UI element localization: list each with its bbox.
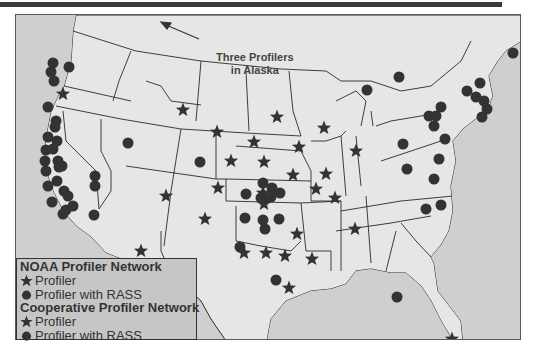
profiler-rass-marker [89,210,100,221]
profiler-rass-marker [260,224,271,235]
profiler-rass-marker [421,204,432,215]
profiler-rass-marker [440,134,451,145]
profiler-rass-marker [241,189,252,200]
annotation-line-2: in Alaska [216,64,294,77]
star-icon [20,315,33,328]
star-icon [20,274,33,287]
legend-label: Profiler with RASS [35,329,142,343]
profiler-rass-marker [58,209,69,220]
profiler-rass-marker [462,86,473,97]
legend-noaa-profiler: Profiler [20,274,193,288]
legend-noaa-header: NOAA Profiler Network [20,260,193,274]
legend-noaa-rass: Profiler with RASS [20,288,193,302]
profiler-rass-marker [49,76,60,87]
profiler-rass-marker [398,139,409,150]
profiler-rass-marker [477,112,488,123]
profiler-rass-marker [50,122,61,133]
profiler-rass-marker [475,78,486,89]
profiler-rass-marker [471,92,482,103]
legend-coop-rass: Profiler with RASS [20,329,193,343]
legend-coop-header: Cooperative Profiler Network [20,301,193,315]
profiler-rass-marker [394,72,405,83]
profiler-rass-marker [57,161,68,172]
profiler-rass-marker [429,121,440,132]
profiler-rass-marker [436,200,447,211]
profiler-rass-marker [52,176,63,187]
profiler-rass-marker [195,157,206,168]
profiler-rass-marker [63,191,74,202]
legend-coop-profiler: Profiler [20,315,193,329]
profiler-rass-marker [43,102,54,113]
profiler-rass-marker [47,197,58,208]
legend: NOAA Profiler Network Profiler Profiler … [16,258,197,340]
profiler-rass-marker [429,174,440,185]
profiler-rass-marker [90,181,101,192]
alaska-annotation: Three Profilers in Alaska [216,51,294,77]
profiler-rass-marker [64,62,75,73]
profiler-rass-marker [271,275,282,286]
profiler-rass-marker [424,111,435,122]
profiler-rass-marker [90,171,101,182]
profiler-rass-marker [240,213,251,224]
profiler-rass-marker [508,48,519,59]
profiler-rass-marker [402,164,413,175]
dot-icon [20,288,33,301]
profiler-rass-marker [48,144,59,155]
profiler-rass-marker [266,192,277,203]
profiler-rass-marker [434,154,445,165]
profiler-rass-marker [40,156,51,167]
annotation-line-1: Three Profilers [216,51,294,64]
top-rule [0,2,502,7]
profiler-rass-marker [68,201,79,212]
dot-icon [20,329,33,342]
profiler-rass-marker [362,85,373,96]
profiler-rass-marker [41,166,52,177]
profiler-rass-marker [274,214,285,225]
profiler-rass-marker [392,292,403,303]
profiler-rass-marker [123,138,134,149]
legend-label: Profiler [35,315,76,329]
legend-label: Profiler [35,274,76,288]
legend-label: Profiler with RASS [35,288,142,302]
